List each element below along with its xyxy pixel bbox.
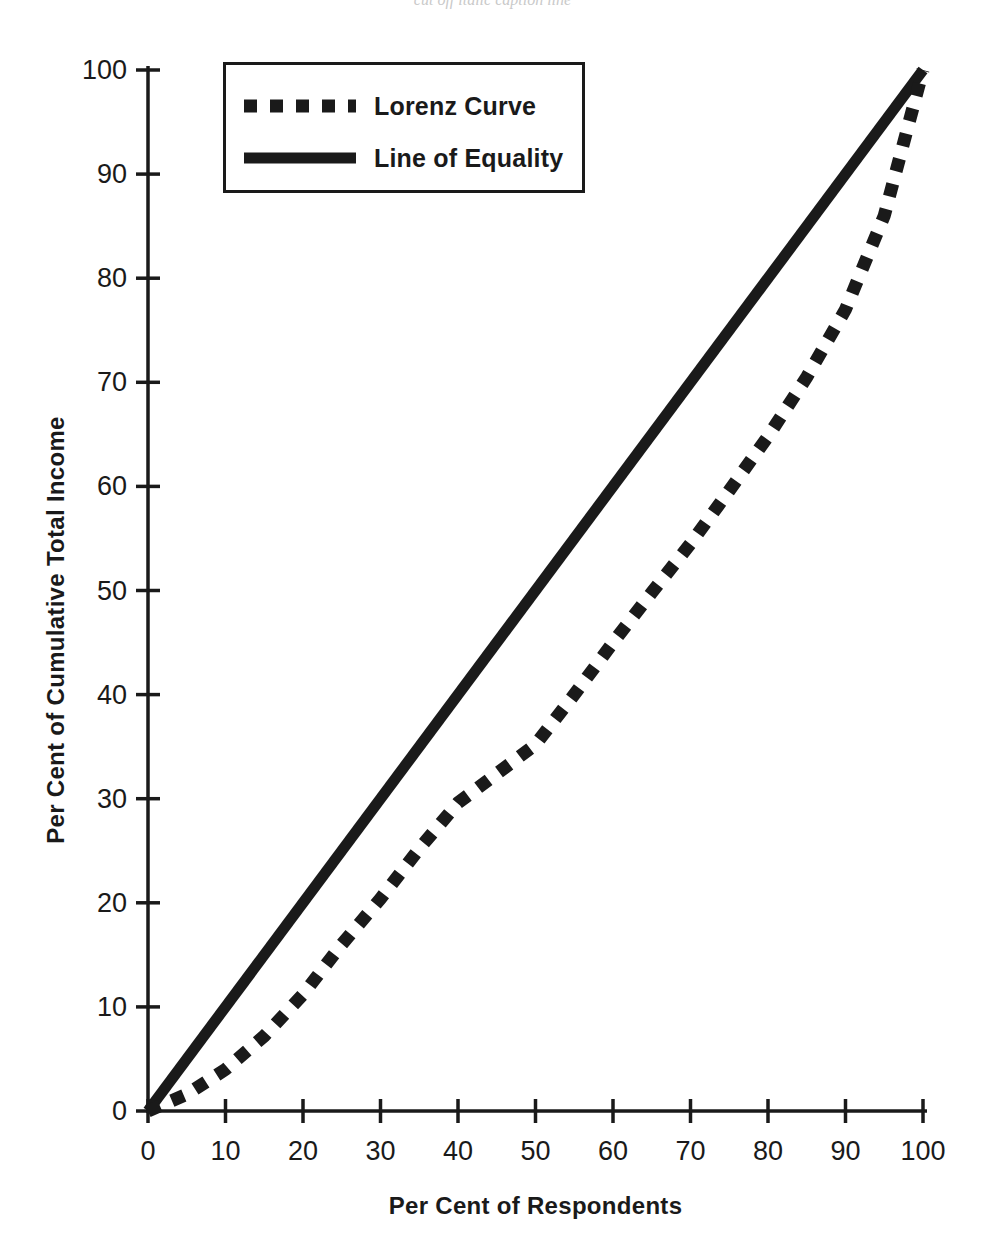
legend-item-lorenz-curve[interactable]: Lorenz Curve	[226, 83, 582, 129]
x-tick-label: 100	[900, 1136, 945, 1167]
y-tick-label: 90	[55, 159, 127, 190]
x-tick-label: 10	[210, 1136, 240, 1167]
x-tick-label: 60	[598, 1136, 628, 1167]
x-tick-label: 80	[753, 1136, 783, 1167]
y-axis-title: Per Cent of Cumulative Total Income	[42, 330, 70, 930]
x-tick-label: 40	[443, 1136, 473, 1167]
x-axis-title: Per Cent of Respondents	[148, 1192, 923, 1220]
y-tick-label: 100	[55, 55, 127, 86]
x-tick-label: 30	[365, 1136, 395, 1167]
dotted-line-swatch-icon	[244, 96, 356, 116]
x-tick-label: 0	[140, 1136, 155, 1167]
lorenz-curve-figure: cut off italic caption line 010203040506…	[0, 0, 985, 1256]
x-tick-label: 20	[288, 1136, 318, 1167]
y-tick-label: 0	[55, 1096, 127, 1127]
solid-line-swatch-icon	[244, 148, 356, 168]
x-tick-label: 50	[520, 1136, 550, 1167]
legend-label-line-of-equality: Line of Equality	[374, 144, 563, 173]
legend-label-lorenz-curve: Lorenz Curve	[374, 92, 536, 121]
series-line-of-equality	[148, 70, 923, 1111]
legend-item-line-of-equality[interactable]: Line of Equality	[226, 135, 582, 181]
y-tick-label: 10	[55, 991, 127, 1022]
y-tick-label: 80	[55, 263, 127, 294]
chart-legend: Lorenz Curve Line of Equality	[223, 62, 585, 193]
x-tick-label: 70	[675, 1136, 705, 1167]
x-tick-label: 90	[830, 1136, 860, 1167]
